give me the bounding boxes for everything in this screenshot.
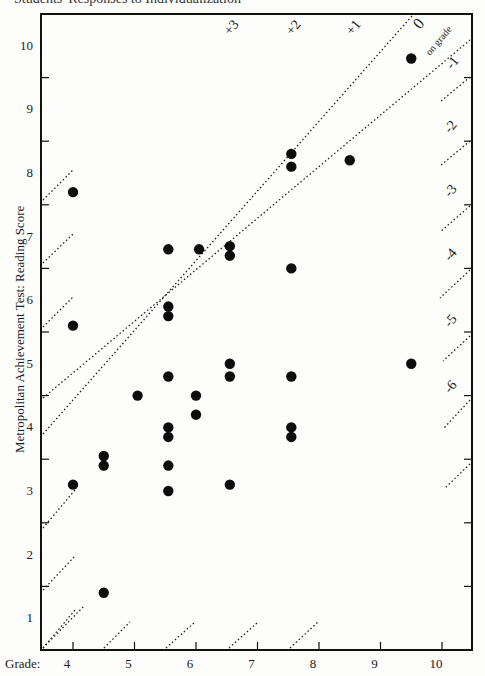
scatter-chart: 1234567891045678910Grade:+3+2+10on grade… — [0, 0, 485, 676]
offset-label-minus1: -1 — [443, 53, 462, 72]
data-point — [99, 588, 109, 598]
diagonal-stub-left — [43, 297, 73, 327]
data-point — [68, 187, 78, 197]
y-tick-label: 10 — [20, 38, 33, 53]
diagonal-stub-left — [43, 556, 75, 590]
offset-label-minus5: -5 — [441, 311, 460, 330]
diagonal-stub-right — [440, 141, 470, 166]
data-point — [163, 422, 173, 432]
x-tick-label: 5 — [125, 656, 132, 671]
data-point — [286, 432, 296, 442]
diagonal-stub-left — [43, 234, 73, 263]
offset-label-plus3: +3 — [221, 17, 242, 38]
y-tick-label: 2 — [27, 547, 34, 562]
data-point — [68, 320, 78, 330]
offset-label-minus6: -6 — [441, 377, 460, 396]
offset-label-on-grade: on grade — [423, 23, 454, 57]
data-point — [163, 460, 173, 470]
x-axis-label: Grade: — [5, 656, 40, 671]
x-tick-label: 7 — [248, 656, 255, 671]
offset-label-zero: 0 — [409, 15, 427, 32]
data-point — [225, 359, 235, 369]
data-point — [163, 371, 173, 381]
y-tick-label: 3 — [27, 483, 34, 498]
x-tick-label: 9 — [371, 656, 378, 671]
diagonal-stub-left — [43, 610, 75, 648]
diagonal-stub-right — [440, 77, 470, 102]
data-point — [225, 479, 235, 489]
diagonal-stub-right — [440, 270, 470, 298]
data-point — [163, 301, 173, 311]
diagonal-stub-left — [43, 605, 85, 648]
data-point — [286, 371, 296, 381]
diagonal-stub-bottom — [104, 622, 130, 648]
diagonal-stub-bottom — [290, 622, 318, 648]
data-point — [286, 422, 296, 432]
data-point — [406, 359, 416, 369]
diagonal-stub-bottom — [229, 622, 258, 648]
data-point — [163, 486, 173, 496]
diagonal-stub-right — [445, 464, 470, 488]
offset-label-minus4: -4 — [441, 245, 460, 264]
y-tick-label: 9 — [27, 101, 34, 116]
data-point — [286, 161, 296, 171]
diagonal-stub-left — [43, 170, 73, 200]
data-point — [406, 53, 416, 63]
diagonal-stub-right — [440, 206, 470, 232]
y-tick-label: 8 — [27, 165, 34, 180]
data-point — [68, 479, 78, 489]
offset-label-minus2: -2 — [441, 117, 460, 136]
data-point — [191, 390, 201, 400]
data-point — [163, 244, 173, 254]
diagonal-stub-right — [443, 400, 470, 429]
offset-label-plus2: +2 — [283, 17, 304, 38]
y-axis-label: Metropolitan Achievement Test: Reading S… — [12, 213, 28, 453]
data-point — [132, 390, 142, 400]
x-tick-label: 10 — [430, 656, 443, 671]
diagonal-line-on-grade — [43, 40, 470, 398]
offset-label-plus1: +1 — [343, 17, 364, 38]
data-point — [225, 250, 235, 260]
data-point — [163, 432, 173, 442]
data-point — [286, 149, 296, 159]
data-point — [99, 460, 109, 470]
diagonal-stub-right — [443, 336, 470, 361]
y-tick-label: 1 — [27, 610, 34, 625]
data-point — [194, 244, 204, 254]
diagonal-stub-bottom — [166, 622, 195, 648]
data-point — [163, 311, 173, 321]
diagonal-line-plus — [43, 16, 412, 434]
x-tick-label: 4 — [64, 656, 71, 671]
data-point — [99, 451, 109, 461]
data-point — [345, 155, 355, 165]
plot-frame — [41, 14, 472, 650]
data-point — [225, 241, 235, 251]
x-tick-label: 8 — [310, 656, 317, 671]
data-point — [286, 263, 296, 273]
data-point — [191, 409, 201, 419]
data-point — [225, 371, 235, 381]
x-tick-label: 6 — [187, 656, 194, 671]
offset-label-minus3: -3 — [441, 181, 460, 200]
